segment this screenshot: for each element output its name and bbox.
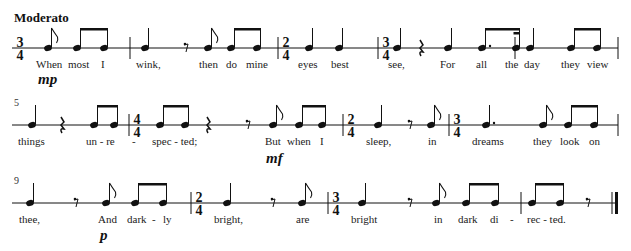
lyric-syllable: For [440,58,456,70]
dynamic-marking: p [98,227,108,243]
augmentation-dot [493,122,495,124]
lyric-syllable: on [589,135,601,147]
lyric-syllable: rec - ted. [527,213,566,225]
time-signature-bottom: 4 [348,125,355,140]
eighth-flag [277,105,283,120]
lyric-syllable: in [434,213,443,225]
beam [81,28,108,31]
time-signature-bottom: 4 [454,125,461,140]
lyric-syllable: when [287,135,311,147]
lyric-syllable: do [226,58,238,70]
lyric-syllable: I [101,58,105,70]
lyric-syllable: the [505,58,519,70]
lyric-syllable: un - re [86,135,115,147]
lyric-syllable: dark [127,213,147,225]
lyric-syllable: day [524,58,540,70]
beam [572,105,598,108]
eighth-flag [306,183,312,198]
lyric-syllable: - [152,213,156,225]
lyric-syllable: look [560,135,580,147]
lyric-syllable: best [331,58,349,70]
score-staff: 342434WhenmostIwink,thendomineeyesbestse… [0,0,631,251]
lyric-syllable: dark [458,213,478,225]
eighth-flag [547,105,553,120]
lyric-syllable: most [68,58,89,70]
sixteenth-beam [514,32,520,35]
lyric-syllable: view [587,58,608,70]
lyric-syllable: sleep, [366,135,392,147]
lyric-syllable: wink, [136,58,161,70]
beam [164,105,189,108]
measure-number: 5 [14,97,19,108]
lyric-syllable: - [510,213,514,225]
lyric-syllable: are [296,213,310,225]
lyric-syllable: bright [351,213,377,225]
final-barline-thick [615,192,618,214]
beam [139,183,167,186]
lyric-syllable: I [320,135,324,147]
beam [486,28,520,31]
lyric-syllable: all [476,58,487,70]
lyric-syllable: But [265,135,281,147]
lyric-syllable: dreams [472,135,504,147]
lyric-syllable: thee, [19,213,40,225]
beam [536,183,564,186]
eighth-flag [440,183,446,198]
dynamic-marking: mf [266,150,285,166]
lyric-syllable: things [18,135,45,147]
beam [98,105,118,108]
eighth-flag [212,28,218,43]
lyric-syllable: eyes [298,58,318,70]
lyric-syllable: then [199,58,218,70]
lyric-syllable: mine [246,58,268,70]
measure-number: 9 [14,175,19,186]
lyric-syllable: bright, [214,213,243,225]
dynamic-marking: mp [38,71,58,87]
lyric-syllable: in [428,135,437,147]
time-signature-bottom: 4 [17,48,24,63]
beam [470,183,499,186]
lyric-syllable: they [561,58,580,70]
beam [575,28,601,31]
lyric-syllable: ly [163,213,172,225]
lyric-syllable: - [132,135,136,147]
time-signature-bottom: 4 [283,48,290,63]
eighth-flag [435,105,441,120]
lyric-syllable: see, [388,58,405,70]
lyric-syllable: spec - ted; [152,135,197,147]
augmentation-dot [489,45,491,47]
eighth-flag [52,28,58,43]
time-signature-bottom: 4 [196,203,203,218]
beam [235,28,261,31]
lyric-syllable: di [490,213,499,225]
time-signature-bottom: 4 [333,203,340,218]
lyric-syllable: they [533,135,552,147]
lyric-syllable: And [98,213,117,225]
lyric-syllable: When [36,58,63,70]
beam [303,105,326,108]
eighth-flag [110,183,116,198]
